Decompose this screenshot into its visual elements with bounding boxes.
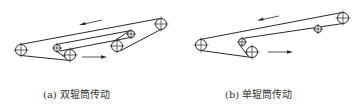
head-drum-b — [336, 11, 351, 26]
caption-b: (b) 单辊筒传动 — [225, 86, 292, 101]
arrow-left-icon — [79, 20, 102, 25]
panel-a-dual-drum — [14, 17, 169, 63]
belt-a-bottom — [21, 56, 70, 61]
arrow-left-icon — [257, 16, 279, 21]
belt-a-head-to-drive2 — [120, 27, 166, 51]
head-drum-a — [154, 17, 169, 32]
arrow-right-icon — [82, 55, 107, 58]
panel-b-single-drum — [194, 11, 351, 60]
arrow-right-icon — [268, 50, 293, 53]
snub-idler-2-a — [126, 29, 136, 39]
tail-drum-a — [14, 43, 29, 58]
tail-drum-b — [194, 38, 209, 53]
conveyor-diagram — [0, 0, 360, 85]
snub-idler-b — [237, 37, 247, 47]
belt-b-return-upper — [242, 24, 343, 39]
snub-idler-1-a — [52, 43, 62, 53]
caption-a: (a) 双辊筒传动 — [43, 86, 110, 101]
return-idler-b — [313, 24, 323, 34]
belt-b-top — [200, 13, 342, 40]
